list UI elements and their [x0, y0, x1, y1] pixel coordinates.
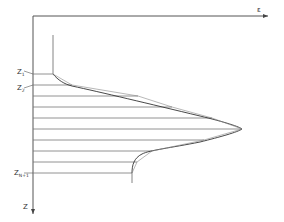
z2-label: Z2 — [17, 84, 25, 93]
z2-leader — [24, 85, 33, 88]
zn1-label: ZN+1 — [14, 169, 29, 178]
z-axis-label: Z — [23, 203, 28, 211]
z1-label: Z1 — [17, 68, 25, 77]
layer-lines — [33, 74, 242, 173]
approximation-curve — [53, 74, 242, 173]
profile-curve — [53, 74, 242, 173]
z1-leader — [24, 71, 33, 74]
epsilon-label: ε — [257, 6, 261, 14]
profile-diagram: ε Z Z1 Z2 ZN+1 — [0, 0, 284, 222]
